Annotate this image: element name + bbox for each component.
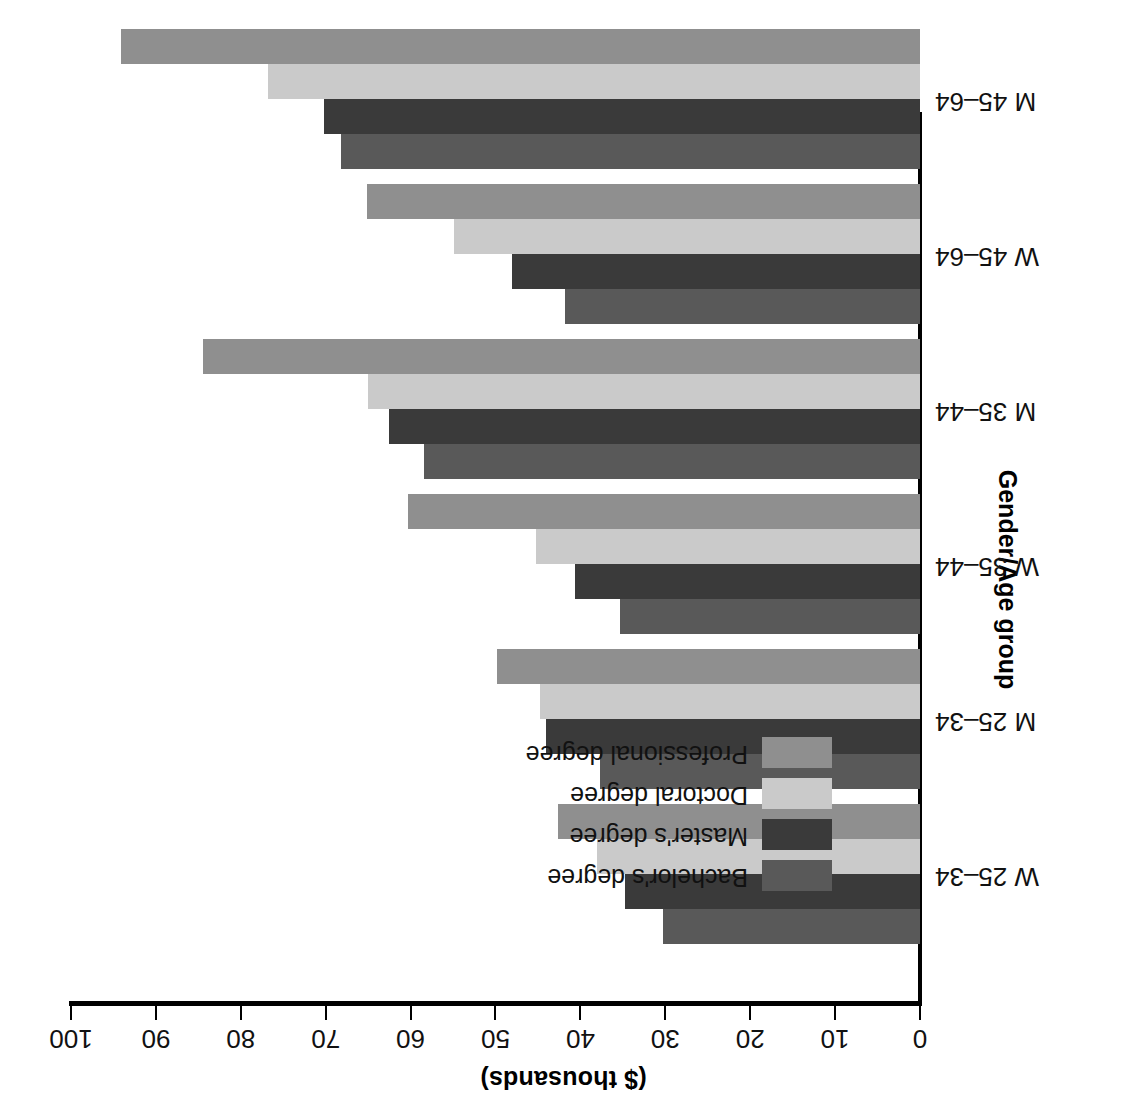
value-tick-mark: [155, 1006, 157, 1020]
bar: [620, 599, 920, 634]
legend-swatch-icon: [762, 819, 832, 850]
legend-label: Doctoral degree: [570, 781, 748, 810]
legend-swatch-icon: [762, 778, 832, 809]
bar: [540, 684, 920, 719]
bar: [408, 494, 920, 529]
bar: [268, 64, 920, 99]
legend-label: Bachelor's degree: [547, 863, 748, 892]
value-tick-mark: [579, 1006, 581, 1020]
category-label: M 45–64: [935, 86, 1120, 117]
legend-item[interactable]: Bachelor's degree: [472, 853, 832, 894]
legend-item[interactable]: Professional degree: [472, 730, 832, 771]
bar: [324, 99, 920, 134]
category-label: W 25–34: [935, 861, 1120, 892]
value-tick-label: 80: [201, 1023, 281, 1054]
value-tick-label: 100: [31, 1023, 111, 1054]
bar: [368, 374, 920, 409]
bar: [341, 134, 920, 169]
bar: [565, 289, 920, 324]
bar: [389, 409, 920, 444]
category-label: W 35–44: [935, 551, 1120, 582]
value-tick-label: 10: [795, 1023, 875, 1054]
legend: Bachelor's degreeMaster's degreeDoctoral…: [472, 730, 832, 894]
value-tick-label: 30: [625, 1023, 705, 1054]
category-label: M 35–44: [935, 396, 1120, 427]
plot-area: ($ thousands) Gender/Age group 010203040…: [0, 0, 1127, 1114]
bar: [203, 339, 920, 374]
bar: [575, 564, 920, 599]
category-label: M 25–34: [935, 706, 1120, 737]
legend-label: Professional degree: [526, 740, 748, 769]
legend-item[interactable]: Master's degree: [472, 812, 832, 853]
bar: [512, 254, 920, 289]
value-tick-label: 70: [286, 1023, 366, 1054]
bar: [663, 909, 920, 944]
value-tick-label: 20: [710, 1023, 790, 1054]
category-label: W 45–64: [935, 241, 1120, 272]
value-tick-mark: [70, 1006, 72, 1020]
value-tick-mark: [240, 1006, 242, 1020]
bar: [497, 649, 920, 684]
value-tick-mark: [325, 1006, 327, 1020]
legend-swatch-icon: [762, 860, 832, 891]
value-tick-label: 40: [540, 1023, 620, 1054]
legend-swatch-icon: [762, 737, 832, 768]
value-tick-label: 90: [116, 1023, 196, 1054]
bar: [454, 219, 920, 254]
value-tick-mark: [749, 1006, 751, 1020]
legend-item[interactable]: Doctoral degree: [472, 771, 832, 812]
value-tick-label: 60: [371, 1023, 451, 1054]
value-tick-mark: [410, 1006, 412, 1020]
chart-figure: ($ thousands) Gender/Age group 010203040…: [0, 0, 1127, 1114]
bar: [121, 29, 920, 64]
bar-group: M 35–44: [0, 339, 1127, 479]
value-tick-mark: [495, 1006, 497, 1020]
bar: [424, 444, 920, 479]
value-axis-title: ($ thousands): [0, 1065, 1127, 1094]
bar-group: M 45–64: [0, 29, 1127, 169]
value-axis-line: [69, 1001, 922, 1006]
value-tick-mark: [664, 1006, 666, 1020]
bar: [367, 184, 920, 219]
value-tick-mark: [919, 1006, 921, 1020]
value-tick-mark: [834, 1006, 836, 1020]
value-tick-label: 50: [456, 1023, 536, 1054]
bar-group: W 35–44: [0, 494, 1127, 634]
bar: [536, 529, 920, 564]
value-tick-label: 0: [880, 1023, 960, 1054]
legend-label: Master's degree: [570, 822, 748, 851]
bar-group: W 45–64: [0, 184, 1127, 324]
